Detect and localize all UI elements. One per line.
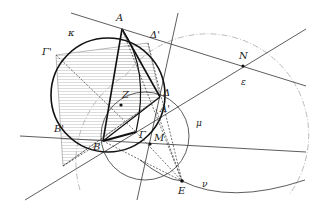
label-E: E xyxy=(177,185,186,196)
label-A-prime: A' xyxy=(159,103,170,114)
label-kappa: κ xyxy=(67,27,75,38)
label-mu: μ xyxy=(196,118,202,128)
label-G: Γ xyxy=(138,129,147,140)
point-N xyxy=(241,64,244,67)
geometry-diagram: A Δ' κ Γ' Z Δ A' B' B Γ M E N ε μ ν xyxy=(0,0,324,208)
label-Z: Z xyxy=(121,89,130,100)
label-nu: ν xyxy=(202,179,208,189)
label-B-prime: B' xyxy=(53,123,64,134)
label-D: Δ xyxy=(162,87,170,98)
label-D-prime: Δ' xyxy=(149,29,160,40)
curve-nu xyxy=(140,160,305,193)
point-E xyxy=(180,179,184,183)
label-G-prime: Γ' xyxy=(41,46,52,57)
label-M: M xyxy=(153,132,165,143)
label-epsilon: ε xyxy=(241,77,246,87)
label-B: B xyxy=(92,141,100,152)
point-M xyxy=(148,142,151,145)
label-N: N xyxy=(238,50,249,61)
point-Z xyxy=(119,103,122,106)
label-A: A xyxy=(115,12,123,23)
